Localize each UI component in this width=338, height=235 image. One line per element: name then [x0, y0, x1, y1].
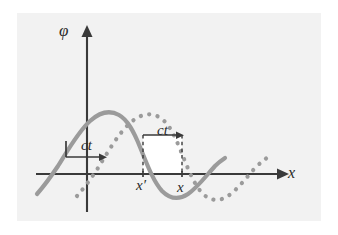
phi-axis-label: φ	[59, 22, 68, 39]
x-tick-label: x	[177, 180, 184, 195]
ct-right-label: ct	[157, 123, 168, 138]
phi-axis-arrowhead	[82, 25, 93, 37]
figure-canvas	[0, 0, 338, 235]
x-prime-tick-label: x′	[136, 178, 146, 193]
ct-left-label: ct	[81, 138, 92, 153]
figure-root: φ x ct ct x′ x	[0, 0, 338, 235]
x-axis-label: x	[288, 165, 295, 181]
